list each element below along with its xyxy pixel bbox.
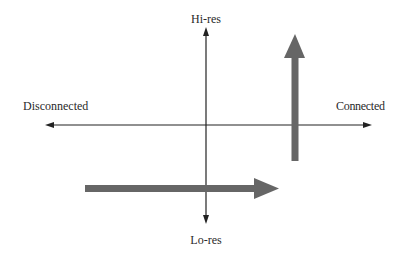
right-arrowhead-icon: [363, 122, 372, 128]
vertical-trend-arrow: [284, 34, 305, 161]
up-arrowhead-icon: [203, 27, 209, 36]
down-arrowhead-icon: [203, 215, 209, 224]
quadrant-diagram: Hi-res Lo-res Disconnected Connected: [0, 0, 409, 259]
axis-label-lo-res: Lo-res: [190, 233, 221, 248]
axis-label-hi-res: Hi-res: [191, 12, 221, 27]
axis-label-connected: Connected: [336, 99, 385, 114]
left-arrowhead-icon: [45, 122, 54, 128]
diagram-graphics: [0, 0, 409, 259]
thick-up-arrowhead-icon: [284, 34, 305, 58]
horizontal-axis: [45, 122, 372, 128]
thick-right-arrowhead-icon: [254, 178, 279, 199]
horizontal-trend-arrow: [85, 178, 279, 199]
axis-label-disconnected: Disconnected: [23, 99, 88, 114]
